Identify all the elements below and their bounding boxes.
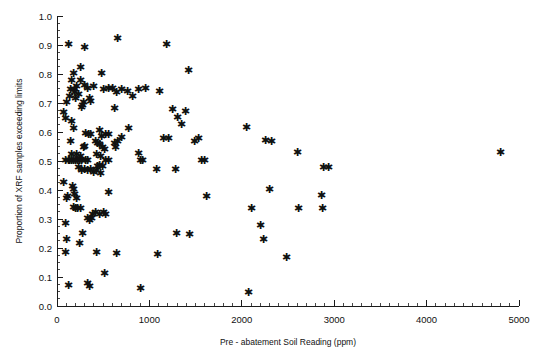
y-axis-tick-labels: 0.00.10.20.30.40.50.60.70.80.91.0 (39, 11, 52, 312)
data-point: ✱ (112, 247, 121, 259)
data-point: ✱ (177, 118, 186, 130)
data-point: ✱ (247, 202, 256, 214)
data-point: ✱ (79, 96, 88, 108)
data-point: ✱ (100, 143, 109, 155)
data-point: ✱ (194, 132, 203, 144)
data-point: ✱ (112, 86, 121, 98)
y-tick-label: 0.0 (39, 301, 52, 312)
data-point: ✱ (75, 237, 84, 249)
data-point: ✱ (61, 246, 70, 258)
data-point: ✱ (113, 32, 122, 44)
data-point: ✱ (100, 267, 109, 279)
y-tick-label: 0.8 (39, 69, 52, 80)
data-point: ✱ (259, 233, 268, 245)
y-tick-label: 0.6 (39, 127, 52, 138)
data-point: ✱ (61, 217, 70, 229)
data-point: ✱ (66, 135, 75, 147)
x-tick-label: 0 (54, 314, 59, 325)
data-point: ✱ (80, 140, 89, 152)
plot-canvas: 010002000300040005000 0.00.10.20.30.40.5… (0, 0, 541, 359)
data-point: ✱ (265, 183, 274, 195)
data-point: ✱ (92, 246, 101, 258)
y-tick-label: 0.5 (39, 156, 52, 167)
data-point: ✱ (99, 83, 108, 95)
data-point-series: ✱✱✱✱✱✱✱✱✱✱✱✱✱✱✱✱✱✱✱✱✱✱✱✱✱✱✱✱✱✱✱✱✱✱✱✱✱✱✱✱… (59, 32, 505, 298)
y-tick-label: 0.9 (39, 40, 52, 51)
data-point: ✱ (171, 163, 180, 175)
data-point: ✱ (62, 233, 71, 245)
x-tick-label: 3000 (324, 314, 345, 325)
y-tick-label: 0.7 (39, 98, 52, 109)
data-point: ✱ (85, 280, 94, 292)
y-tick-label: 1.0 (39, 11, 52, 22)
data-point: ✱ (98, 160, 107, 172)
data-point: ✱ (293, 146, 302, 158)
data-point: ✱ (184, 64, 193, 76)
data-point: ✱ (242, 121, 251, 133)
data-point: ✱ (104, 186, 113, 198)
x-tick-label: 5000 (508, 314, 529, 325)
data-point: ✱ (87, 212, 96, 224)
data-point: ✱ (185, 228, 194, 240)
data-point: ✱ (162, 38, 171, 50)
x-tick-label: 2000 (231, 314, 252, 325)
data-point: ✱ (164, 132, 173, 144)
data-point: ✱ (317, 189, 326, 201)
data-point: ✱ (101, 208, 110, 220)
x-tick-label: 1000 (139, 314, 160, 325)
y-axis-title: Proportion of XRF samples exceeding limi… (14, 79, 24, 244)
data-point: ✱ (318, 202, 327, 214)
y-tick-label: 0.1 (39, 272, 52, 283)
data-point: ✱ (64, 279, 73, 291)
data-point: ✱ (97, 67, 106, 79)
data-point: ✱ (172, 227, 181, 239)
data-point: ✱ (136, 282, 145, 294)
data-point: ✱ (110, 102, 119, 114)
data-point: ✱ (267, 135, 276, 147)
data-point: ✱ (123, 85, 132, 97)
data-point: ✱ (294, 202, 303, 214)
data-point: ✱ (324, 161, 333, 173)
data-point: ✱ (200, 154, 209, 166)
data-point: ✱ (117, 131, 126, 143)
data-point: ✱ (80, 41, 89, 53)
y-tick-label: 0.4 (39, 185, 52, 196)
data-point: ✱ (282, 251, 291, 263)
x-tick-label: 4000 (416, 314, 437, 325)
x-axis-title: Pre - abatement Soil Reading (ppm) (220, 337, 356, 347)
data-point: ✱ (202, 190, 211, 202)
data-point: ✱ (153, 248, 162, 260)
data-point: ✱ (181, 105, 190, 117)
x-axis-tick-labels: 010002000300040005000 (54, 314, 529, 325)
y-tick-label: 0.2 (39, 243, 52, 254)
data-point: ✱ (256, 219, 265, 231)
data-point: ✱ (138, 154, 147, 166)
data-point: ✱ (64, 38, 73, 50)
data-point: ✱ (141, 82, 150, 94)
data-point: ✱ (69, 122, 78, 134)
data-point: ✱ (496, 146, 505, 158)
data-point: ✱ (155, 85, 164, 97)
y-tick-label: 0.3 (39, 214, 52, 225)
data-point: ✱ (244, 286, 253, 298)
scatter-plot-figure: 010002000300040005000 0.00.10.20.30.40.5… (0, 0, 541, 359)
data-point: ✱ (152, 163, 161, 175)
